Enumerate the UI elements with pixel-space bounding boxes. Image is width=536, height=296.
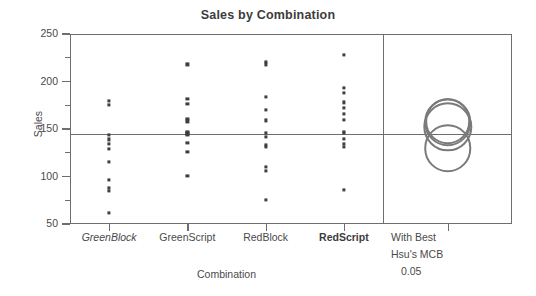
data-point <box>186 103 189 106</box>
y-tick-100 <box>62 176 70 177</box>
data-point <box>108 104 111 107</box>
data-point <box>108 189 111 192</box>
y-tick-minor-125 <box>65 152 70 153</box>
data-point <box>186 174 189 177</box>
data-point <box>186 63 189 66</box>
data-point <box>342 91 345 94</box>
x-axis-label-greenblock: GreenBlock <box>82 231 137 243</box>
data-point <box>186 120 189 123</box>
mcb-caption-line-2: Hsu's MCB <box>391 248 443 260</box>
x-tick-greenscript <box>187 224 188 231</box>
data-point <box>186 150 189 153</box>
y-tick-250 <box>62 33 70 34</box>
data-point <box>264 63 267 66</box>
x-axis-label-redscript: RedScript <box>319 231 369 243</box>
y-tick-minor-75 <box>65 200 70 201</box>
data-point <box>264 145 267 148</box>
y-tick-minor-175 <box>65 105 70 106</box>
x-tick-greenblock <box>109 224 110 231</box>
data-point <box>264 108 267 111</box>
data-point <box>342 145 345 148</box>
data-point <box>342 118 345 121</box>
y-tick-200 <box>62 81 70 82</box>
x-axis-label-greenscript: GreenScript <box>159 231 215 243</box>
data-point <box>108 138 111 141</box>
data-point <box>342 53 345 56</box>
y-tick-150 <box>62 128 70 129</box>
data-point <box>186 142 189 145</box>
data-point <box>264 199 267 202</box>
x-tick-redblock <box>266 224 267 231</box>
data-point <box>264 119 267 122</box>
y-tick-minor-225 <box>65 57 70 58</box>
chart-canvas: Sales by Combination Sales 5010015020025… <box>0 0 536 296</box>
data-point <box>342 137 345 140</box>
chart-title: Sales by Combination <box>0 8 536 22</box>
mcb-caption-line-3: 0.05 <box>401 265 421 277</box>
data-point <box>342 87 345 90</box>
data-point <box>342 188 345 191</box>
y-tick-label-50: 50 <box>22 217 58 229</box>
data-point <box>264 131 267 134</box>
data-point <box>264 135 267 138</box>
data-point <box>186 133 189 136</box>
data-point <box>186 97 189 100</box>
data-point <box>108 179 111 182</box>
y-tick-label-250: 250 <box>22 27 58 39</box>
data-point <box>108 211 111 214</box>
data-point <box>108 143 111 146</box>
data-point <box>342 107 345 110</box>
x-axis-label-redblock: RedBlock <box>243 231 288 243</box>
mcb-caption-line-1: With Best <box>391 231 436 243</box>
x-axis-title: Combination <box>70 268 383 280</box>
data-point <box>108 147 111 150</box>
x-tick-redscript <box>344 224 345 231</box>
data-point <box>108 161 111 164</box>
data-point <box>264 95 267 98</box>
data-point <box>264 169 267 172</box>
x-tick-comparison-panel <box>448 224 449 231</box>
comparison-panel-divider <box>383 34 384 224</box>
data-point <box>342 112 345 115</box>
data-point <box>108 133 111 136</box>
y-tick-50 <box>62 223 70 224</box>
data-point <box>264 165 267 168</box>
data-point <box>342 101 345 104</box>
y-tick-label-100: 100 <box>22 170 58 182</box>
data-point <box>342 131 345 134</box>
mcb-interval-circle-redscript <box>424 124 472 172</box>
data-point <box>108 99 111 102</box>
y-tick-label-200: 200 <box>22 75 58 87</box>
y-tick-label-150: 150 <box>22 122 58 134</box>
